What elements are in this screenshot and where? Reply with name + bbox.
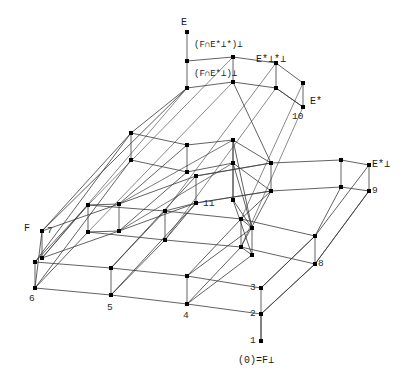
lattice-node bbox=[239, 245, 243, 249]
lattice-node bbox=[185, 274, 189, 278]
lattice-node bbox=[185, 143, 189, 147]
node-label-4: 4 bbox=[183, 311, 189, 321]
lattice-node bbox=[301, 81, 305, 85]
node-label-5: 5 bbox=[107, 303, 113, 313]
node-label-6: 6 bbox=[29, 294, 35, 304]
lattice-node bbox=[185, 30, 189, 34]
lattice-node bbox=[239, 217, 243, 221]
lattice-node bbox=[194, 174, 198, 178]
lattice-node bbox=[259, 286, 263, 290]
label-Estar-perp: E*⊥ bbox=[372, 160, 390, 170]
lattice-node bbox=[86, 203, 90, 207]
node-label-10: 10 bbox=[292, 112, 303, 122]
label-E: E bbox=[181, 18, 187, 28]
lattice-node bbox=[40, 229, 44, 233]
node-label-1: 1 bbox=[250, 336, 256, 346]
lattice-node bbox=[367, 189, 371, 193]
lattice-node bbox=[129, 158, 133, 162]
lattice-node bbox=[185, 86, 189, 90]
lattice-node bbox=[40, 256, 44, 260]
lattice-node bbox=[339, 158, 343, 162]
lattice-node bbox=[269, 189, 273, 193]
lattice-node bbox=[259, 339, 263, 343]
lattice-node bbox=[33, 260, 37, 264]
lattice-node bbox=[269, 161, 273, 165]
label-F: F bbox=[24, 224, 30, 234]
lattice-node bbox=[231, 161, 235, 165]
node-label-3: 3 bbox=[250, 283, 256, 293]
lattice-node bbox=[313, 262, 317, 266]
lattice-node bbox=[259, 312, 263, 316]
lattice-node bbox=[250, 253, 254, 257]
lattice-node bbox=[33, 286, 37, 290]
label-Estar-perp-star-perp: E*⊥*⊥ bbox=[256, 55, 286, 65]
lattice-figure bbox=[0, 0, 408, 385]
lattice-node bbox=[313, 234, 317, 238]
lattice-node bbox=[129, 131, 133, 135]
label-F-cap-Estar-perp: (F∩E*⊥)⊥ bbox=[194, 70, 237, 79]
node-label-2: 2 bbox=[250, 309, 256, 319]
lattice-node bbox=[185, 59, 189, 63]
label-zero-equals-F-perp: (0)=F⊥ bbox=[238, 356, 274, 366]
lattice-node bbox=[163, 238, 167, 242]
node-label-8: 8 bbox=[318, 259, 324, 269]
lattice-node bbox=[301, 105, 305, 109]
lattice-node bbox=[117, 229, 121, 233]
label-F-cap-Estar-perp-star: (F∩E*⊥*)⊥ bbox=[194, 41, 243, 50]
lattice-diagram-page: 1 2 3 4 5 6 7 8 9 10 11 E (F∩E*⊥*)⊥ (F∩E… bbox=[0, 0, 408, 385]
lattice-node bbox=[86, 230, 90, 234]
lattice-node bbox=[109, 293, 113, 297]
lattice-node bbox=[231, 80, 235, 84]
node-label-11: 11 bbox=[203, 199, 214, 209]
lattice-node bbox=[117, 202, 121, 206]
lattice-node bbox=[339, 185, 343, 189]
lattice-node bbox=[109, 266, 113, 270]
lattice-node bbox=[231, 55, 235, 59]
node-label-9: 9 bbox=[372, 186, 378, 196]
lattice-node bbox=[250, 226, 254, 230]
lattice-node bbox=[163, 209, 167, 213]
lattice-node bbox=[185, 170, 189, 174]
lattice-node bbox=[231, 198, 235, 202]
lattice-node bbox=[185, 302, 189, 306]
label-Estar: E* bbox=[310, 97, 322, 107]
lattice-node bbox=[367, 163, 371, 167]
node-label-7: 7 bbox=[47, 226, 53, 236]
lattice-node bbox=[274, 86, 278, 90]
lattice-node bbox=[194, 201, 198, 205]
lattice-node bbox=[231, 138, 235, 142]
